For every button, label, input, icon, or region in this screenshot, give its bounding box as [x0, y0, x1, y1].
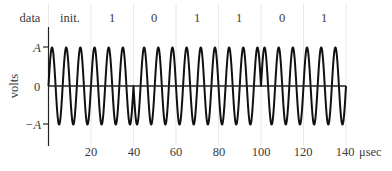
segment-label-bit3: 1	[194, 11, 200, 25]
x-axis-unit-label: μsec	[359, 145, 382, 159]
x-tick-label-140: 140	[336, 145, 355, 159]
y-axis	[43, 27, 49, 146]
y-axis-label: volts	[7, 74, 21, 98]
dpsk-waveform-chart: data init. 1 0 1 1 0 1 A 0 −A volts 20 4…	[0, 0, 392, 171]
x-tick-label-80: 80	[213, 145, 226, 159]
x-tick-label-60: 60	[170, 145, 183, 159]
segment-label-bit1: 1	[109, 11, 115, 25]
y-tick-label-A: A	[32, 41, 41, 55]
segment-label-bit4: 1	[236, 11, 242, 25]
x-tick-label-20: 20	[85, 145, 98, 159]
y-tick-label-zero: 0	[34, 80, 40, 94]
segment-label-bit5: 0	[279, 11, 285, 25]
segment-label-init: init.	[60, 11, 80, 25]
segment-label-bit6: 1	[321, 11, 327, 25]
x-tick-labels: 20 40 60 80 100 120 140 μsec	[85, 145, 382, 159]
x-tick-label-100: 100	[252, 145, 271, 159]
x-tick-label-120: 120	[294, 145, 313, 159]
x-tick-label-40: 40	[128, 145, 141, 159]
y-tick-label-minus-A: −A	[25, 118, 41, 132]
data-row: data init. 1 0 1 1 0 1	[20, 11, 328, 25]
data-row-label: data	[20, 11, 41, 25]
segment-label-bit2: 0	[151, 11, 157, 25]
